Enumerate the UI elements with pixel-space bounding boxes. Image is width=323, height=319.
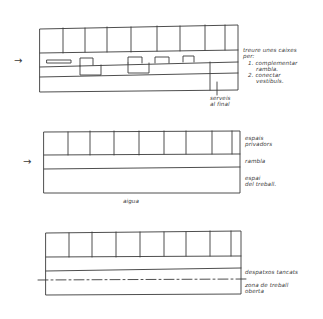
sketch-1-outline bbox=[40, 25, 238, 92]
note-line: per: bbox=[242, 53, 255, 60]
sketch-2-outline bbox=[44, 131, 240, 193]
box bbox=[80, 65, 101, 75]
corridor-line bbox=[46, 268, 241, 271]
sketch-1-notes: treure unes caixes per: 1. complementar … bbox=[242, 47, 298, 84]
private-row-line bbox=[44, 154, 240, 155]
sketch-1-callout: serveis al final bbox=[210, 95, 231, 107]
bench-bar bbox=[47, 60, 71, 63]
sketch-2-plan bbox=[44, 131, 240, 193]
callout-line: al final bbox=[210, 101, 230, 107]
sketch-3-plan bbox=[38, 231, 246, 295]
note-line: vestíbuls. bbox=[256, 78, 284, 84]
label-private: privadors bbox=[244, 141, 272, 148]
rambla-line-2 bbox=[40, 73, 238, 77]
box bbox=[128, 57, 142, 63]
sketch-1-top-row-line bbox=[40, 50, 238, 53]
label-open-work-zone: oberta bbox=[245, 288, 264, 294]
sketch-3-outline bbox=[46, 231, 241, 295]
label-rambla: rambla bbox=[245, 158, 266, 164]
arrow-icon: → bbox=[23, 156, 31, 167]
sketch-2-labels: espais privadors rambla espai del trebal… bbox=[244, 135, 276, 187]
rambla-line bbox=[44, 167, 240, 169]
sketch-1-plan bbox=[40, 25, 238, 95]
axis-dashdot-line bbox=[38, 279, 246, 280]
box bbox=[80, 58, 93, 66]
label-shared: del treball. bbox=[245, 181, 276, 187]
box bbox=[183, 56, 194, 62]
label-closed-offices: despatxos tancats bbox=[245, 269, 298, 276]
arrow-icon: → bbox=[14, 55, 22, 66]
water-caption: aigua bbox=[123, 198, 139, 205]
sketch-3-labels: despatxos tancats zona de treball oberta bbox=[244, 269, 298, 294]
box bbox=[155, 57, 169, 63]
offices-row-line bbox=[46, 256, 241, 257]
sketch-canvas: → treure unes caixes per: 1. complementa… bbox=[0, 0, 323, 319]
